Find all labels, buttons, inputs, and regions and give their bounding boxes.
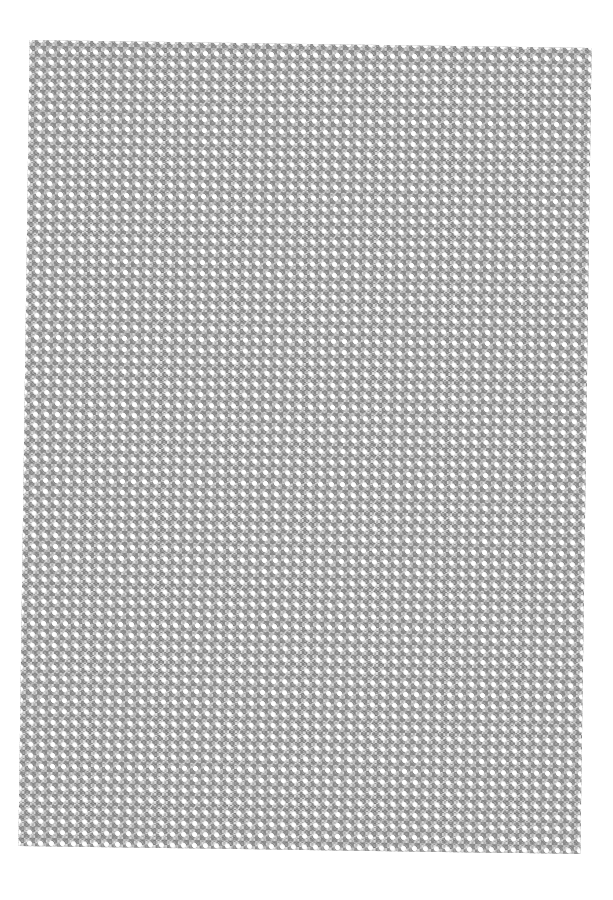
patterned-paper-sheet (18, 40, 591, 854)
